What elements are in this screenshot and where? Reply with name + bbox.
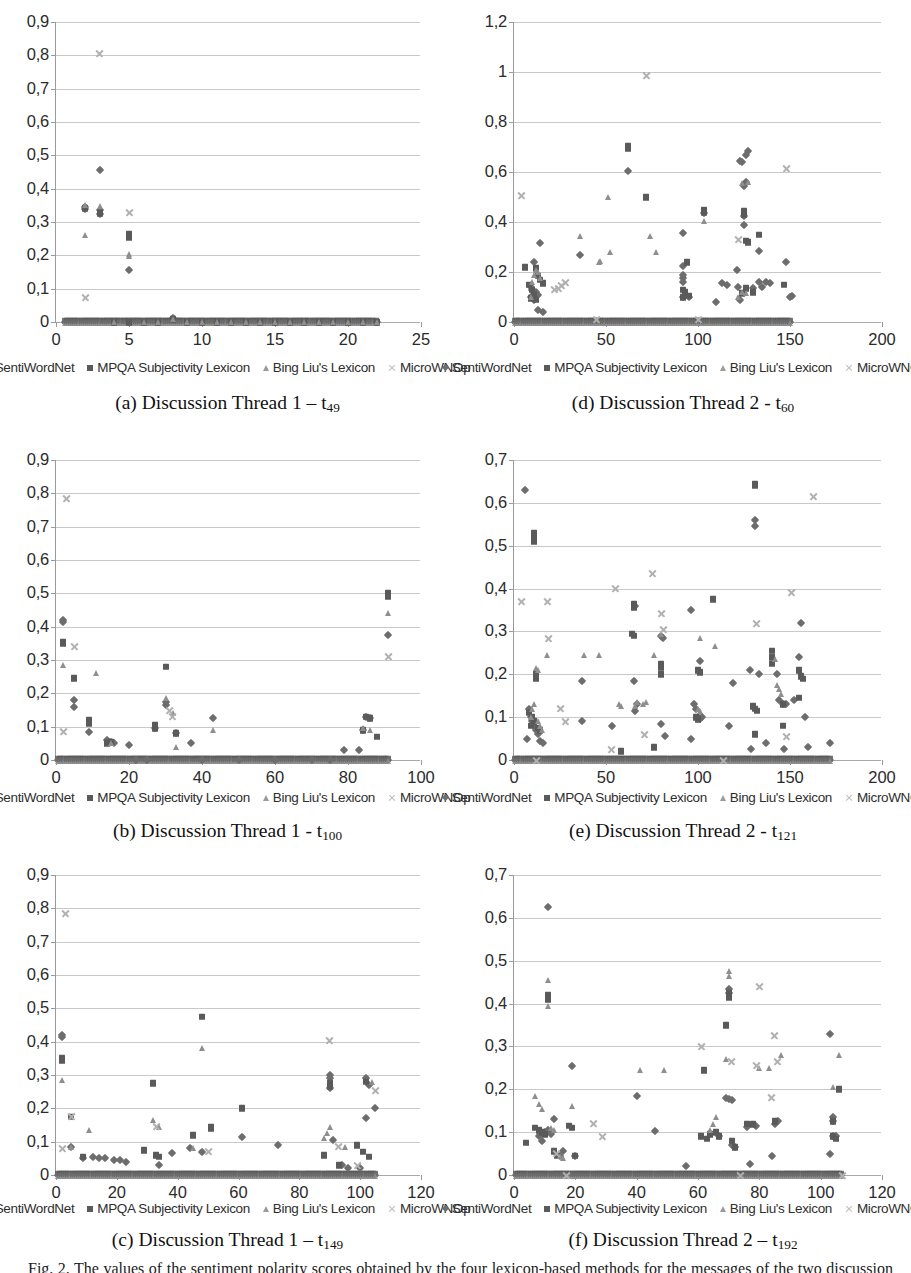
- data-point-zero: [679, 1171, 685, 1178]
- legend-item-3[interactable]: MicroWNOp: [845, 360, 911, 375]
- legend-item-2[interactable]: Bing Liu's Lexicon: [263, 1201, 375, 1216]
- data-point-diamond: [524, 704, 532, 712]
- data-point-diamond: [754, 247, 762, 255]
- data-point-diamond: [754, 278, 762, 286]
- data-point-zero: [214, 1171, 220, 1178]
- legend-item-1[interactable]: MPQA Subjectivity Lexicon: [87, 1201, 250, 1216]
- data-point-zero: [372, 758, 378, 764]
- data-point-x: [550, 285, 559, 294]
- data-point-zero: [152, 756, 158, 763]
- data-point-diamond: [686, 606, 694, 614]
- data-point-zero: [517, 1173, 523, 1179]
- legend-item-3[interactable]: MicroWNOp: [845, 790, 911, 805]
- legend-item-0[interactable]: SentiWordNet: [443, 1201, 532, 1216]
- data-point-zero: [651, 756, 657, 763]
- legend-label: MicroWNOp: [857, 1201, 911, 1216]
- data-point-zero: [290, 1171, 296, 1178]
- legend-item-2[interactable]: Bing Liu's Lexicon: [720, 1201, 832, 1216]
- data-point-x: [659, 625, 668, 634]
- legend-item-0[interactable]: SentiWordNet: [0, 790, 74, 805]
- data-point-square: [744, 1120, 750, 1127]
- data-point-zero: [62, 320, 68, 326]
- square-icon: [87, 795, 93, 801]
- diamond-icon: [442, 1205, 449, 1212]
- x-tick-label: 100: [684, 330, 712, 349]
- data-point-zero: [649, 1173, 655, 1179]
- data-point-zero: [109, 1173, 115, 1179]
- y-tick-label: 0,4: [485, 212, 514, 231]
- data-point-square: [658, 660, 664, 667]
- legend-item-1[interactable]: MPQA Subjectivity Lexicon: [87, 360, 250, 375]
- data-point-zero: [716, 318, 722, 325]
- data-point-x: [67, 1112, 76, 1121]
- data-point-zero: [710, 320, 716, 326]
- data-point-zero: [675, 1171, 681, 1178]
- data-point-zero: [229, 1173, 235, 1179]
- data-point-zero: [187, 756, 193, 763]
- data-point-zero: [518, 758, 524, 764]
- data-point-zero: [712, 758, 718, 764]
- legend-item-2[interactable]: Bing Liu's Lexicon: [720, 360, 832, 375]
- data-point-zero: [575, 318, 581, 325]
- data-point-zero: [783, 318, 789, 325]
- data-point-zero: [63, 1173, 69, 1179]
- data-point-zero: [542, 756, 548, 763]
- data-point-zero: [154, 1173, 160, 1179]
- plot-area-e: 00,10,20,30,40,50,60,7050100150200: [513, 460, 881, 760]
- data-point-zero: [139, 318, 145, 325]
- data-point-zero: [560, 756, 566, 763]
- data-point-zero: [794, 756, 800, 763]
- legend-item-2[interactable]: Bing Liu's Lexicon: [263, 790, 375, 805]
- data-point-zero: [234, 320, 240, 326]
- legend-item-0[interactable]: SentiWordNet: [443, 790, 532, 805]
- data-point-square: [682, 289, 688, 296]
- data-point-zero: [721, 1171, 727, 1178]
- data-point-zero: [738, 1171, 744, 1178]
- x-tick-label: 0: [509, 768, 518, 787]
- legend-item-1[interactable]: MPQA Subjectivity Lexicon: [544, 360, 707, 375]
- data-point-square: [754, 707, 760, 714]
- data-point-zero: [827, 758, 833, 764]
- legend-item-1[interactable]: MPQA Subjectivity Lexicon: [87, 790, 250, 805]
- data-point-zero: [607, 1171, 613, 1178]
- data-point-x: [334, 1142, 343, 1151]
- data-point-zero: [318, 320, 324, 326]
- data-point-zero: [748, 1173, 754, 1179]
- x-tick-mark: [790, 760, 791, 765]
- data-point-zero: [516, 756, 522, 763]
- data-point-zero: [208, 756, 214, 763]
- legend-item-2[interactable]: Bing Liu's Lexicon: [263, 360, 375, 375]
- legend-item-0[interactable]: SentiWordNet: [443, 360, 532, 375]
- data-point-zero: [620, 1171, 626, 1178]
- legend-item-0[interactable]: SentiWordNet: [0, 1201, 74, 1216]
- legend-item-3[interactable]: MicroWNOp: [845, 1201, 911, 1216]
- data-point-square: [367, 715, 373, 722]
- legend-item-2[interactable]: Bing Liu's Lexicon: [720, 790, 832, 805]
- data-point-triangle: [661, 1067, 667, 1073]
- data-point-zero: [284, 320, 290, 326]
- data-point-zero: [139, 1173, 145, 1179]
- legend-label: SentiWordNet: [452, 1201, 532, 1216]
- data-point-zero: [206, 758, 212, 764]
- data-point-diamond: [789, 696, 797, 704]
- data-point-zero: [549, 1171, 555, 1178]
- data-point-x: [557, 281, 566, 290]
- data-point-zero: [672, 320, 678, 326]
- data-point-diamond: [832, 1132, 840, 1140]
- data-point-zero: [655, 318, 661, 325]
- data-point-zero: [166, 756, 172, 763]
- data-point-zero: [349, 1173, 355, 1179]
- y-gridline: [56, 189, 420, 190]
- data-point-zero: [250, 758, 256, 764]
- data-point-x: [752, 1061, 761, 1070]
- legend-item-1[interactable]: MPQA Subjectivity Lexicon: [544, 790, 707, 805]
- data-point-zero: [607, 320, 613, 326]
- data-point-zero: [737, 318, 743, 325]
- legend-item-1[interactable]: MPQA Subjectivity Lexicon: [544, 1201, 707, 1216]
- data-point-zero: [305, 318, 311, 325]
- data-point-zero: [137, 1171, 143, 1178]
- data-point-diamond: [782, 700, 790, 708]
- legend-item-0[interactable]: SentiWordNet: [0, 360, 74, 375]
- data-point-triangle: [774, 682, 780, 688]
- data-point-zero: [777, 756, 783, 763]
